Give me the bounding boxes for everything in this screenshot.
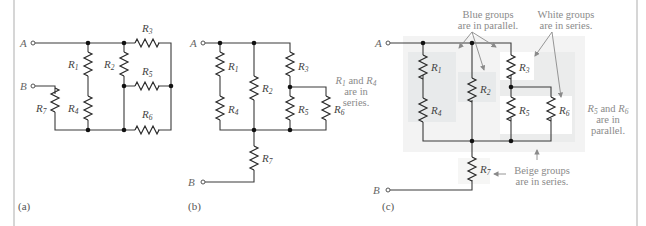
note-blue-line1: Blue groups bbox=[462, 9, 513, 20]
node bbox=[252, 128, 257, 133]
terminal-b bbox=[201, 180, 205, 184]
note-beige-line1: Beige groups bbox=[514, 165, 570, 176]
terminal-a bbox=[31, 41, 35, 45]
resistor-r4 bbox=[84, 96, 92, 120]
node bbox=[288, 85, 293, 90]
node bbox=[122, 41, 127, 46]
note-r5r6-line2: are in bbox=[596, 114, 620, 125]
terminal-a-label: A bbox=[19, 37, 27, 49]
terminal-b-label: B bbox=[188, 176, 195, 188]
terminal-a-label: A bbox=[374, 37, 382, 49]
label-r6: R6 bbox=[141, 108, 153, 122]
caption-b: (b) bbox=[188, 200, 201, 213]
note-white-line1: White groups bbox=[538, 9, 595, 20]
label-r1: R1 bbox=[67, 58, 78, 72]
note-beige-line2: are in series. bbox=[516, 176, 569, 187]
resistor-r3 bbox=[286, 52, 294, 76]
label-r4: R4 bbox=[227, 103, 239, 117]
resistor-r2 bbox=[120, 52, 128, 76]
label-r2: R2 bbox=[261, 82, 273, 96]
panel-b: A B R1 R2 R3 R4 R5 R6 R7 (b) bbox=[188, 37, 345, 213]
node bbox=[288, 128, 293, 133]
node bbox=[470, 41, 475, 46]
label-r7: R7 bbox=[35, 102, 47, 116]
label-r7: R7 bbox=[261, 152, 273, 166]
resistor-r1 bbox=[84, 52, 92, 76]
resistor-r3 bbox=[135, 39, 159, 47]
terminal-a-label: A bbox=[189, 37, 197, 49]
label-r3: R3 bbox=[141, 22, 153, 36]
note-white-line2: are in series. bbox=[540, 20, 593, 31]
note-r5r6-line3: parallel. bbox=[591, 125, 625, 136]
note-blue-line2: are in parallel. bbox=[458, 20, 518, 31]
label-r3: R3 bbox=[297, 60, 309, 74]
resistor-r6 bbox=[322, 96, 330, 120]
panel-a: A B R1 R2 R3 R4 R5 R6 R7 (a) bbox=[18, 22, 173, 213]
node bbox=[86, 41, 91, 46]
note-r1r4-line2: are in bbox=[344, 86, 368, 97]
node bbox=[122, 84, 127, 89]
node bbox=[218, 41, 223, 46]
node bbox=[470, 139, 475, 144]
terminal-b-label: B bbox=[20, 80, 27, 92]
resistor-r5 bbox=[286, 96, 294, 120]
label-r1: R1 bbox=[227, 60, 238, 74]
resistor-r6 bbox=[135, 126, 159, 134]
node bbox=[421, 41, 426, 46]
terminal-a bbox=[386, 41, 390, 45]
resistor-r1 bbox=[216, 52, 224, 76]
panel-c: A B R1 R2 R3 R4 R5 R6 R7 Blue groups are… bbox=[335, 9, 629, 213]
label-r2: R2 bbox=[103, 58, 115, 72]
node bbox=[169, 84, 174, 89]
label-r5: R5 bbox=[297, 103, 309, 117]
caption-c: (c) bbox=[382, 200, 395, 213]
node bbox=[252, 41, 257, 46]
resistor-r5 bbox=[135, 82, 159, 90]
node bbox=[509, 85, 514, 90]
circuit-figure: A B R1 R2 R3 R4 R5 R6 R7 (a) A B R1 R2 R… bbox=[0, 0, 646, 226]
resistor-r7 bbox=[51, 88, 59, 112]
resistor-r2 bbox=[250, 76, 258, 100]
resistor-r4 bbox=[216, 96, 224, 120]
panel-b-r7-wire bbox=[205, 130, 254, 182]
node bbox=[86, 128, 91, 133]
terminal-a bbox=[201, 41, 205, 45]
node bbox=[509, 139, 514, 144]
terminal-b-label: B bbox=[373, 184, 380, 196]
label-r4: R4 bbox=[67, 102, 79, 116]
resistor-r7 bbox=[250, 146, 258, 170]
terminal-b bbox=[31, 84, 35, 88]
label-r5: R5 bbox=[141, 65, 153, 79]
node bbox=[122, 128, 127, 133]
caption-a: (a) bbox=[18, 200, 31, 213]
blue-group-r2 bbox=[458, 72, 496, 102]
note-r1r4-line3: series. bbox=[343, 97, 370, 108]
terminal-b bbox=[386, 188, 390, 192]
